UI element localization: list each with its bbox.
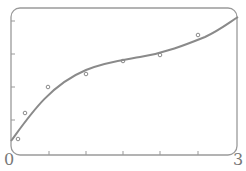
data-point (23, 111, 27, 115)
data-point (196, 33, 200, 37)
top-left-clipped-label: 22 (4, 0, 19, 1)
data-point (84, 72, 88, 76)
plot-frame (11, 8, 237, 155)
chart-canvas (0, 0, 246, 171)
fit-curve (11, 17, 238, 141)
data-point (16, 137, 20, 141)
x-axis-start-label: 0 (4, 152, 14, 168)
data-point (46, 85, 50, 89)
x-axis-end-label: 3 (233, 152, 243, 168)
